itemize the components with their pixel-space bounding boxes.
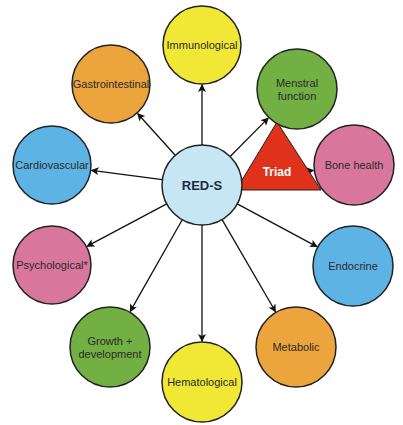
triad-label: Triad xyxy=(263,165,292,179)
triad-triangle: Triad xyxy=(236,122,321,190)
node-hematological: Hematological xyxy=(162,342,242,422)
red-s-center-node: RED-S xyxy=(162,145,242,225)
cardiovascular-label: Cardiovascular xyxy=(15,159,89,171)
node-bone-health: Bone health xyxy=(314,125,394,205)
node-psychological: Psychological* xyxy=(13,226,91,304)
node-gastrointestinal: Gastrointestinal xyxy=(72,45,150,123)
immunological-label: Immunological xyxy=(167,39,238,51)
endocrine-label: Endocrine xyxy=(328,260,378,272)
growth-development-label: development xyxy=(79,348,142,360)
bone-health-label: Bone health xyxy=(325,159,384,171)
gastrointestinal-label: Gastrointestinal xyxy=(73,78,149,90)
arrow-to-gastrointestinal xyxy=(138,114,175,156)
arrow-to-endocrine xyxy=(237,204,317,247)
hematological-label: Hematological xyxy=(167,376,237,388)
node-endocrine: Endocrine xyxy=(313,226,393,306)
node-menstral-function: Menstralfunction xyxy=(257,49,337,129)
psychological-label: Psychological* xyxy=(16,259,88,271)
menstral-function-label: function xyxy=(278,90,317,102)
arrow-to-cardiovascular xyxy=(92,170,163,179)
node-metabolic: Metabolic xyxy=(256,307,336,387)
arrow-to-metabolic xyxy=(222,220,275,312)
arrow-to-psychological xyxy=(87,204,166,246)
node-growth-development: Growth +development xyxy=(70,307,150,387)
diagram-canvas: Triad ImmunologicalGastrointestinalMenst… xyxy=(0,0,403,425)
menstral-function-label: Menstral xyxy=(276,77,318,89)
arrow-to-growth-development xyxy=(130,220,182,312)
center-label: RED-S xyxy=(182,178,223,193)
node-cardiovascular: Cardiovascular xyxy=(13,126,91,204)
growth-development-label: Growth + xyxy=(88,335,133,347)
red-s-diagram: Triad ImmunologicalGastrointestinalMenst… xyxy=(0,0,403,425)
node-immunological: Immunological xyxy=(163,6,241,84)
metabolic-label: Metabolic xyxy=(272,341,320,353)
